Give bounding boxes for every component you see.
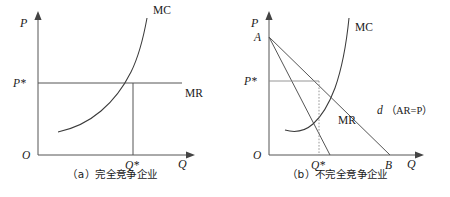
marginal-revenue-label: MR: [338, 114, 356, 126]
marginal-revenue-label: MR: [185, 87, 203, 99]
demand-label: d: [377, 104, 383, 116]
price-intercept-label: A: [253, 31, 262, 43]
panel-perfect-competition: P Q O P* Q* MC MR （a）完全竞争企业: [0, 0, 225, 197]
x-axis-arrow: [415, 151, 424, 158]
x-axis-arrow: [186, 151, 195, 158]
y-axis-arrow: [34, 11, 41, 20]
demand-label-paren: （AR=P）: [386, 105, 432, 116]
panel-b-caption: （b）不完全竞争企业: [225, 166, 450, 181]
figure-container: P Q O P* Q* MC MR （a）完全竞争企业: [0, 0, 450, 197]
chart-imperfect-competition: P Q O A B P* Q* MC MR d （AR=P）: [225, 0, 450, 175]
price-star-label: P*: [12, 77, 26, 89]
marginal-cost-curve: [58, 18, 147, 132]
demand-line: [269, 37, 390, 155]
marginal-cost-label: MC: [153, 4, 171, 16]
y-axis-arrow: [265, 11, 272, 20]
chart-perfect-competition: P Q O P* Q* MC MR: [0, 0, 225, 175]
marginal-cost-label: MC: [355, 21, 373, 33]
price-star-label: P*: [243, 75, 257, 87]
panel-a-caption: （a）完全竞争企业: [0, 166, 225, 181]
origin-label: O: [22, 149, 31, 161]
y-axis-label: P: [19, 16, 28, 30]
origin-label: O: [253, 149, 262, 161]
panel-imperfect-competition: P Q O A B P* Q* MC MR d （AR=P） （b）不完全竞争企…: [225, 0, 450, 197]
marginal-revenue-line: [269, 37, 330, 155]
y-axis-label: P: [250, 16, 259, 30]
